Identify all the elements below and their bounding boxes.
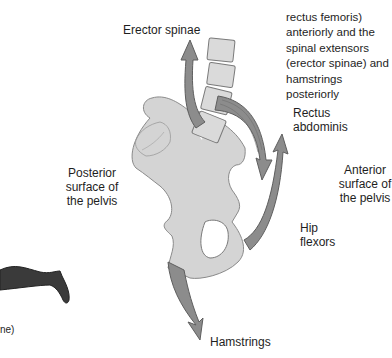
caption-line: hamstrings (286, 72, 389, 88)
pelvis-muscle-diagram: (iliopsoas and rectus femoris) anteriorl… (0, 0, 392, 358)
lumbar-vertebrae (192, 38, 236, 144)
label-hip-flexors: Hip flexors (300, 221, 335, 249)
hip-flexors-arrow-icon (244, 134, 288, 250)
label-erector-spinae: Erector spinae (123, 23, 200, 37)
label-line: the pelvis (58, 194, 126, 208)
label-line: surface of (334, 177, 392, 191)
label-line: Anterior (334, 163, 392, 177)
label-line: Posterior (58, 166, 126, 180)
label-posterior-surface: Posterior surface of the pelvis (58, 166, 126, 208)
figure-caption: (iliopsoas and rectus femoris) anteriorl… (286, 0, 389, 103)
label-line: the pelvis (334, 191, 392, 205)
label-anterior-surface: Anterior surface of the pelvis (334, 163, 392, 205)
pelvis-bone-shape (132, 97, 245, 278)
label-line: Hip (300, 221, 335, 235)
caption-line: posteriorly (286, 87, 389, 103)
caption-line: rectus femoris) (286, 10, 389, 26)
caption-line: spinal extensors (286, 41, 389, 57)
label-hamstrings: Hamstrings (210, 335, 271, 349)
label-line: surface of (58, 180, 126, 194)
label-rectus-abdominis: Rectus abdominis (293, 106, 348, 134)
label-line: flexors (300, 235, 335, 249)
caption-line: anteriorly and the (286, 25, 389, 41)
label-line: Rectus (293, 106, 348, 120)
label-fragment-left: ne) (0, 323, 14, 337)
leg-silhouette-icon (0, 266, 69, 303)
label-line: abdominis (293, 120, 348, 134)
caption-line: (erector spinae) and (286, 56, 389, 72)
